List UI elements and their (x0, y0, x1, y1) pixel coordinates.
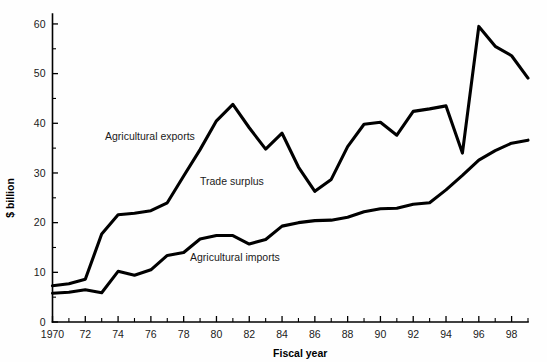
x-tick-label: 86 (309, 328, 321, 340)
y-axis-title: $ billion (4, 178, 16, 218)
x-tick-label: 96 (473, 328, 485, 340)
y-tick-label: 10 (34, 266, 46, 278)
x-tick-label: 90 (375, 328, 387, 340)
x-tick-label: 74 (112, 328, 124, 340)
data-series-group (53, 26, 529, 293)
y-tick-label: 60 (34, 18, 46, 30)
x-tick-label: 94 (440, 328, 452, 340)
annotation-trade-surplus: Trade surplus (200, 175, 264, 187)
y-axis: 0102030405060 (34, 14, 58, 328)
x-tick-label: 82 (243, 328, 255, 340)
x-tick-label: 98 (506, 328, 518, 340)
x-tick-label: 92 (407, 328, 419, 340)
y-tick-label: 0 (40, 316, 46, 328)
x-tick-label: 78 (178, 328, 190, 340)
x-axis: 19707274767880828486889092949698 (41, 316, 528, 340)
chart-container: 0102030405060 19707274767880828486889092… (0, 0, 547, 362)
x-tick-label: 1970 (41, 328, 65, 340)
x-tick-label: 76 (145, 328, 157, 340)
y-tick-label: 20 (34, 216, 46, 228)
x-axis-title: Fiscal year (273, 347, 327, 359)
y-tick-label: 30 (34, 167, 46, 179)
annotation-agricultural-imports: Agricultural imports (190, 251, 280, 263)
x-tick-label: 84 (276, 328, 288, 340)
line-chart-svg: 0102030405060 19707274767880828486889092… (0, 0, 547, 362)
x-tick-label: 80 (211, 328, 223, 340)
series-line-agricultural-exports (53, 26, 529, 285)
x-tick-label: 88 (342, 328, 354, 340)
x-tick-label: 72 (79, 328, 91, 340)
series-line-agricultural-imports (53, 140, 529, 293)
y-tick-label: 50 (34, 67, 46, 79)
annotation-agricultural-exports: Agricultural exports (105, 130, 195, 142)
y-tick-label: 40 (34, 117, 46, 129)
